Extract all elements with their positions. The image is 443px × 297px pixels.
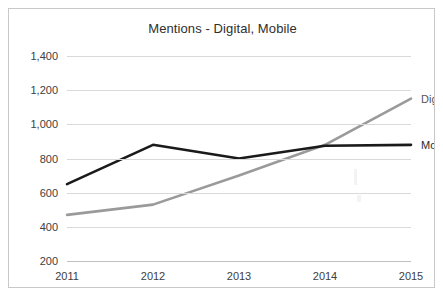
chart-figure: Mentions - Digital, Mobile 2004006008001… xyxy=(8,8,435,288)
y-axis-tick-label: 1,400 xyxy=(30,50,58,62)
y-axis-tick-label: 200 xyxy=(40,255,58,267)
y-axis-tick-label: 800 xyxy=(40,153,58,165)
series-label-mobile: Mobile xyxy=(421,139,435,151)
gridline xyxy=(67,193,411,194)
x-axis-tick-label: 2012 xyxy=(141,270,165,282)
x-axis-tick-label: 2011 xyxy=(55,270,79,282)
series-line-mobile xyxy=(67,145,411,184)
gridline xyxy=(67,56,411,57)
series-line-digital xyxy=(67,99,411,215)
x-axis-tick-label: 2015 xyxy=(399,270,423,282)
series-label-digital: Digital xyxy=(421,93,435,105)
gridline xyxy=(67,227,411,228)
gridline xyxy=(67,124,411,125)
gridline xyxy=(67,261,411,262)
gridline xyxy=(67,90,411,91)
plot-area: 2004006008001,0001,2001,4002011201220132… xyxy=(67,56,411,261)
y-axis-tick-label: 600 xyxy=(40,187,58,199)
chart-title: Mentions - Digital, Mobile xyxy=(9,21,435,36)
x-axis-tick-label: 2013 xyxy=(227,270,251,282)
y-axis-tick-label: 400 xyxy=(40,221,58,233)
gridline xyxy=(67,159,411,160)
x-axis-tick-label: 2014 xyxy=(313,270,337,282)
y-axis-tick-label: 1,200 xyxy=(30,84,58,96)
y-axis-tick-label: 1,000 xyxy=(30,118,58,130)
